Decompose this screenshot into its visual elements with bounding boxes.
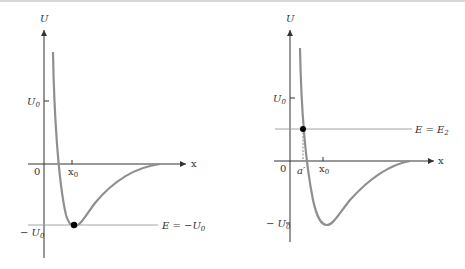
- x-axis-label: x: [191, 158, 197, 169]
- a-prime-label: a′: [297, 165, 306, 176]
- u0-label: U0: [273, 93, 286, 106]
- potential-curve: [53, 52, 160, 226]
- origin-label: 0: [280, 163, 286, 174]
- y-axis-label: U: [40, 13, 49, 24]
- neg-u0-label: − U0: [266, 218, 291, 231]
- right-panel: U x 0 a′ x0 U0 − U0 E = E2: [266, 13, 449, 242]
- potential-curve: [300, 48, 410, 225]
- equilibrium-point: [71, 222, 77, 228]
- origin-label: 0: [34, 166, 40, 177]
- x0-label: x0: [319, 163, 329, 176]
- energy-line-label: E = E2: [414, 124, 449, 137]
- turning-point: [300, 126, 306, 132]
- x-axis-label: x: [438, 155, 444, 166]
- left-panel: U x 0 x0 U0 − U0 E = −U0: [20, 13, 206, 258]
- neg-u0-label: − U0: [20, 227, 45, 240]
- y-axis-label: U: [286, 13, 295, 24]
- u0-label: U0: [27, 96, 40, 109]
- x0-label: x0: [68, 166, 78, 179]
- potential-energy-diagram: U x 0 x0 U0 − U0 E = −U0 U x 0 a′ x0 U0: [0, 0, 465, 269]
- energy-line-label: E = −U0: [161, 220, 206, 233]
